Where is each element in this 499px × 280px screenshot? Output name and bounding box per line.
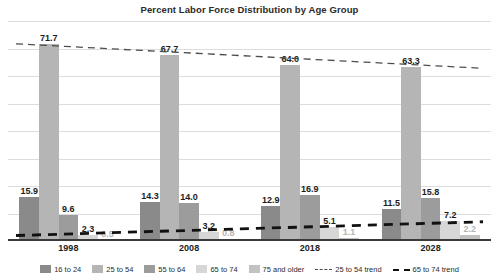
legend-item[interactable]: 65 to 74 — [196, 265, 237, 274]
bar[interactable]: 14.3 — [140, 202, 160, 241]
bar-value-label: 67.7 — [161, 44, 179, 54]
bar[interactable]: 71.7 — [39, 44, 59, 241]
bar-value-label: 14.3 — [141, 191, 159, 201]
legend-thin-dashed-line-icon — [315, 265, 332, 273]
bar-value-label: 64.0 — [282, 54, 300, 64]
bar-value-label: 14.0 — [180, 192, 198, 202]
x-axis-tick-1998: 1998 — [8, 243, 129, 257]
bar-slot: 71.7 — [39, 21, 59, 241]
bar-slot: 0.8 — [219, 21, 239, 241]
bar-slot: 15.9 — [19, 21, 39, 241]
legend-label: 55 to 64 — [158, 265, 185, 274]
legend-item[interactable]: 75 and older — [249, 265, 305, 274]
legend-swatch-icon — [40, 265, 51, 273]
bar-value-label: 71.7 — [40, 33, 58, 43]
chart-legend: 16 to 2425 to 5455 to 6465 to 7475 and o… — [0, 262, 499, 276]
bar-value-label: 11.5 — [383, 198, 400, 208]
legend-swatch-icon — [144, 265, 155, 273]
bar-slot: 16.9 — [300, 21, 320, 241]
bar[interactable]: 67.7 — [160, 55, 180, 241]
bar-value-label: 15.9 — [20, 186, 38, 196]
bar-value-label: 3.2 — [202, 221, 215, 231]
bar-value-label: 0.8 — [222, 228, 235, 238]
bar[interactable]: 11.5 — [382, 209, 402, 241]
bar-value-label: 9.6 — [62, 204, 75, 214]
bar-value-label: 15.8 — [422, 187, 440, 197]
bar-value-label: 2.3 — [82, 224, 95, 234]
x-axis-tick-2008: 2008 — [129, 243, 250, 257]
bar-slot: 5.1 — [320, 21, 340, 241]
bar[interactable]: 15.8 — [421, 198, 441, 241]
bar[interactable]: 12.9 — [261, 206, 281, 241]
legend-label: 75 and older — [263, 265, 305, 274]
bar-value-label: 0.5 — [101, 229, 114, 239]
legend-swatch-icon — [92, 265, 103, 273]
bar-value-label: 5.1 — [323, 216, 336, 226]
x-axis-labels: 1998200820182028 — [8, 243, 491, 257]
bar-groups: 15.971.79.62.30.514.367.714.03.20.812.96… — [8, 21, 491, 241]
bar-group: 15.971.79.62.30.5 — [8, 21, 129, 241]
legend-label: 65 to 74 trend — [413, 265, 459, 274]
chart-title: Percent Labor Force Distribution by Age … — [0, 4, 499, 15]
bar-group: 14.367.714.03.20.8 — [129, 21, 250, 241]
bar-value-label: 12.9 — [262, 195, 280, 205]
legend-item[interactable]: 16 to 24 — [40, 265, 81, 274]
bar[interactable]: 15.9 — [19, 197, 39, 241]
bar-slot: 63.3 — [401, 21, 421, 241]
bar-slot: 64.0 — [280, 21, 300, 241]
legend-label: 25 to 54 trend — [335, 265, 381, 274]
bar-slot: 7.2 — [440, 21, 460, 241]
legend-item[interactable]: 55 to 64 — [144, 265, 185, 274]
bar-value-label: 2.2 — [464, 224, 477, 234]
bar[interactable]: 14.0 — [179, 203, 199, 242]
bar-slot: 15.8 — [421, 21, 441, 241]
legend-item[interactable]: 25 to 54 — [92, 265, 133, 274]
plot-area: 15.971.79.62.30.514.367.714.03.20.812.96… — [8, 21, 491, 241]
legend-item[interactable]: 65 to 74 trend — [393, 265, 459, 274]
legend-thick-dashed-line-icon — [393, 265, 410, 273]
x-axis-line — [8, 239, 491, 242]
bar-slot: 3.2 — [199, 21, 219, 241]
bar-slot: 12.9 — [261, 21, 281, 241]
legend-label: 25 to 54 — [106, 265, 133, 274]
x-axis-tick-2028: 2028 — [370, 243, 491, 257]
legend-label: 65 to 74 — [210, 265, 237, 274]
bar-group: 12.964.016.95.11.1 — [250, 21, 371, 241]
bar-slot: 1.1 — [339, 21, 359, 241]
bar-slot: 9.6 — [59, 21, 79, 241]
bar-slot: 14.0 — [179, 21, 199, 241]
bar-value-label: 1.1 — [343, 227, 356, 237]
legend-item[interactable]: 25 to 54 trend — [315, 265, 381, 274]
bar-slot: 2.3 — [78, 21, 98, 241]
bar-slot: 2.2 — [460, 21, 480, 241]
bar-slot: 67.7 — [160, 21, 180, 241]
legend-swatch-icon — [196, 265, 207, 273]
bar[interactable]: 63.3 — [401, 67, 421, 241]
bar-value-label: 63.3 — [402, 56, 420, 66]
legend-label: 16 to 24 — [54, 265, 81, 274]
bar[interactable]: 64.0 — [280, 65, 300, 241]
bar[interactable]: 9.6 — [59, 215, 79, 241]
bar-group: 11.563.315.87.22.2 — [370, 21, 491, 241]
bar-slot: 14.3 — [140, 21, 160, 241]
bar-slot: 0.5 — [98, 21, 118, 241]
chart-container: Percent Labor Force Distribution by Age … — [0, 0, 499, 280]
bar-value-label: 16.9 — [301, 184, 319, 194]
x-axis-tick-2018: 2018 — [250, 243, 371, 257]
bar-slot: 11.5 — [382, 21, 402, 241]
bar[interactable]: 16.9 — [300, 195, 320, 241]
legend-swatch-icon — [249, 265, 260, 273]
bar-value-label: 7.2 — [444, 210, 457, 220]
